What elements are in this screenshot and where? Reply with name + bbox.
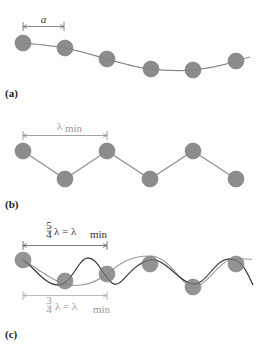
equation-bottom: λ = λ xyxy=(55,300,78,312)
subscript-top: min xyxy=(90,228,108,240)
lambda-subscript: min xyxy=(65,122,83,134)
atom xyxy=(15,143,31,159)
atom xyxy=(57,273,73,289)
equation-top: λ = λ xyxy=(54,225,77,237)
atoms-a xyxy=(15,35,244,78)
dimension-five-quarter-lambda: 5 4 λ = λ min xyxy=(23,219,108,250)
dimension-three-quarter-lambda: 3 4 λ = λ min xyxy=(23,291,111,315)
panel-b: λ min (b) xyxy=(5,120,244,211)
panel-label-c: (c) xyxy=(5,328,18,341)
atom xyxy=(57,171,73,187)
subscript-bottom: min xyxy=(93,303,111,315)
panel-c: 5 4 λ = λ min 3 4 xyxy=(5,219,253,341)
atom xyxy=(99,266,115,282)
panel-a: a (a) xyxy=(5,13,250,100)
atom xyxy=(185,143,201,159)
atom xyxy=(142,256,158,272)
frac-den-bottom: 4 xyxy=(46,303,52,315)
zigzag-line-b xyxy=(23,151,236,179)
panel-label-a: (a) xyxy=(5,87,18,100)
frac-den-top: 4 xyxy=(46,228,52,240)
dimension-a: a xyxy=(23,13,64,31)
dimension-lambda-min: λ min xyxy=(23,120,107,140)
lambda-symbol: λ xyxy=(57,120,63,132)
atom xyxy=(228,171,244,187)
lattice-wave-diagram: a (a) λ min xyxy=(0,0,267,350)
atom xyxy=(142,171,158,187)
atom xyxy=(228,256,244,272)
panel-label-b: (b) xyxy=(5,198,19,211)
atom xyxy=(99,143,115,159)
atom xyxy=(185,279,201,295)
dimension-a-label: a xyxy=(41,13,47,25)
